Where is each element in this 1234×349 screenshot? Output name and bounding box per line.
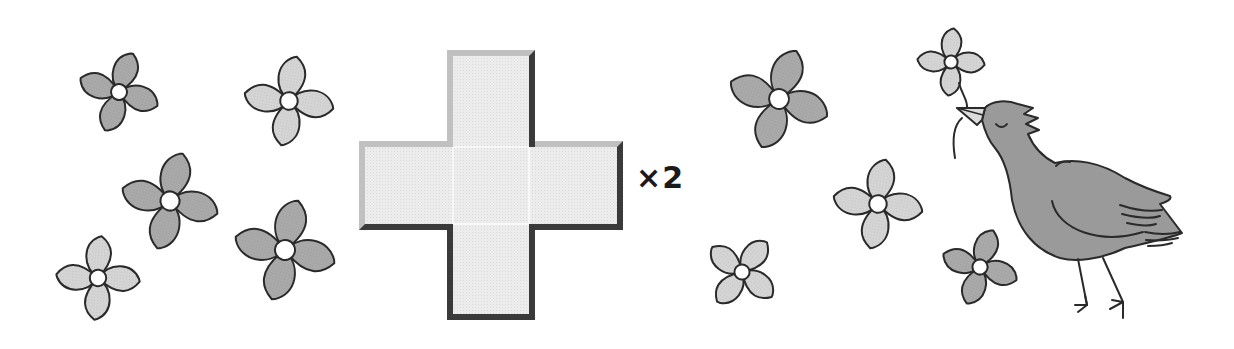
flower-icon xyxy=(67,40,172,145)
multiplier-label: ×2 xyxy=(636,160,684,195)
bird-leg-right xyxy=(1103,258,1123,318)
flower-stem-lower xyxy=(954,118,962,158)
flower-center xyxy=(89,269,107,287)
flower-icon xyxy=(826,152,930,256)
flower-stem xyxy=(959,83,967,108)
flower-icon xyxy=(930,217,1029,316)
plus-shaped-tile xyxy=(359,50,623,320)
bird-beak xyxy=(957,108,985,125)
cross-bevel-highlight-right xyxy=(535,141,623,147)
flower-icon xyxy=(237,49,341,153)
illustration-canvas xyxy=(0,0,1234,349)
flower-icon xyxy=(223,188,348,313)
flower-icon xyxy=(687,217,796,326)
flower-icon xyxy=(915,26,988,99)
bird-illustration xyxy=(954,83,1182,318)
bird-body xyxy=(982,101,1182,259)
flower-icon xyxy=(53,233,144,324)
flower-center xyxy=(944,55,958,69)
flower-icon xyxy=(714,34,845,165)
flower-icon xyxy=(110,141,230,261)
